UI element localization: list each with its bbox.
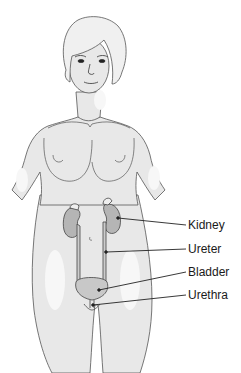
anatomy-figure: [0, 0, 241, 373]
label-bladder: Bladder: [188, 265, 229, 279]
label-ureter: Ureter: [188, 242, 221, 256]
body-silhouette: [12, 39, 165, 373]
label-kidney: Kidney: [188, 218, 225, 232]
label-urethra: Urethra: [188, 288, 228, 302]
